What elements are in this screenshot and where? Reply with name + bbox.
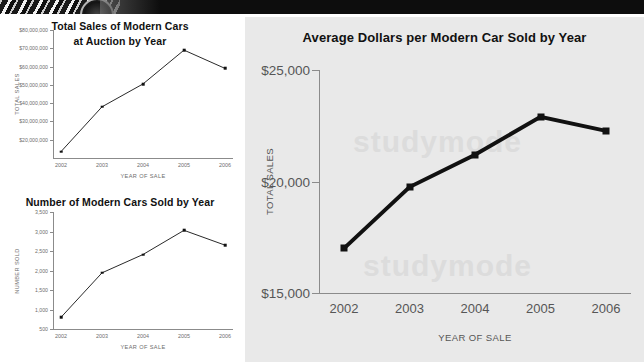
chart3-data-point xyxy=(406,184,413,191)
chart2-data-point xyxy=(101,272,104,275)
chart2-data-point xyxy=(60,316,63,319)
chart2-series-line xyxy=(0,192,240,362)
figure-page: Total Sales of Modern Cars at Auction by… xyxy=(0,0,644,362)
chart2-data-point xyxy=(224,244,227,247)
chart-number-sold: Number of Modern Cars Sold by Year 5001,… xyxy=(0,192,240,362)
chart1-data-point xyxy=(224,67,227,70)
chart3-data-point xyxy=(472,151,479,158)
chart3-series-line xyxy=(245,17,644,362)
top-decoration-band xyxy=(0,0,644,14)
chart3-data-point xyxy=(341,245,348,252)
chart1-data-point xyxy=(60,150,63,153)
chart1-data-point xyxy=(142,83,145,86)
chart3-data-point xyxy=(603,127,610,134)
chart1-data-point xyxy=(183,49,186,52)
chart1-data-point xyxy=(101,106,104,109)
chart2-data-point xyxy=(183,229,186,232)
chart3-data-point xyxy=(537,113,544,120)
chart-total-sales: Total Sales of Modern Cars at Auction by… xyxy=(0,18,240,188)
band-gradient xyxy=(100,0,160,14)
chart-average-dollars: Average Dollars per Modern Car Sold by Y… xyxy=(245,17,644,362)
chart1-series-line xyxy=(0,18,240,188)
chart2-data-point xyxy=(142,253,145,256)
